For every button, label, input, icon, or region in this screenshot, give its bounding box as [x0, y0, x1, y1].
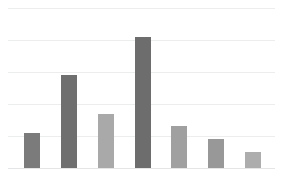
caption-strip: [0, 169, 283, 186]
bar-chart-figure: [0, 0, 283, 186]
bar-7[interactable]: [245, 152, 261, 168]
bar-5[interactable]: [171, 126, 187, 168]
bars-layer: [0, 0, 283, 169]
bar-2[interactable]: [61, 75, 77, 168]
bar-1[interactable]: [24, 133, 40, 168]
plot-area: [0, 0, 283, 169]
bar-6[interactable]: [208, 139, 224, 168]
bar-3[interactable]: [98, 114, 114, 168]
bar-4[interactable]: [135, 37, 151, 168]
